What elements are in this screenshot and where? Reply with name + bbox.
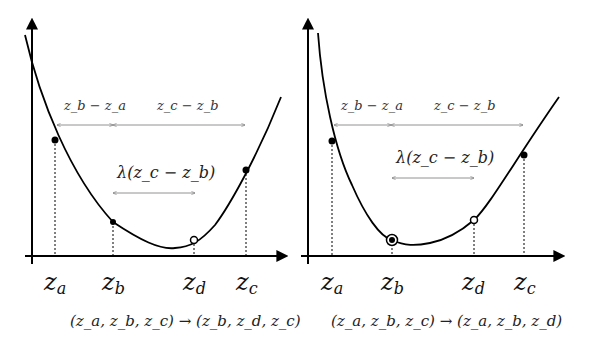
tick-label-zb: zb (380, 268, 404, 298)
label-zc-minus-zb: z_c − z_b (433, 98, 495, 113)
objective-curve (25, 35, 281, 248)
tick-label-zc: zc (513, 268, 536, 298)
transition-formula-right: (z_a, z_b, z_c) → (z_a, z_b, z_d) (331, 312, 562, 330)
golden-section-diagram: z_b − z_a z_c − z_b λ(z_c − z_b) za zb z… (0, 0, 591, 353)
tick-label-zd: zd (461, 268, 485, 298)
label-lambda: λ(z_c − z_b) (395, 148, 494, 167)
left-panel: z_b − z_a z_c − z_b λ(z_c − z_b) za zb z… (25, 20, 301, 330)
point-zd-hollow (191, 237, 198, 244)
point-za (52, 137, 59, 144)
objective-curve (318, 33, 559, 245)
point-zb (110, 219, 116, 225)
point-zc (243, 167, 250, 174)
label-lambda: λ(z_c − z_b) (116, 163, 215, 182)
label-zb-minus-za: z_b − z_a (63, 98, 126, 113)
tick-label-za: za (43, 268, 66, 298)
point-zd-hollow (471, 217, 478, 224)
label-zb-minus-za: z_b − z_a (340, 98, 403, 113)
tick-label-zd: zd (182, 268, 206, 298)
tick-label-za: za (320, 268, 343, 298)
label-zc-minus-zb: z_c − z_b (156, 98, 218, 113)
right-panel: z_b − z_a z_c − z_b λ(z_c − z_b) za zb z… (301, 20, 563, 330)
point-zb (389, 237, 395, 243)
point-zc (521, 152, 528, 159)
transition-formula-left: (z_a, z_b, z_c) → (z_b, z_d, z_c) (70, 312, 301, 330)
tick-label-zc: zc (235, 268, 258, 298)
tick-label-zb: zb (101, 268, 125, 298)
point-za (329, 138, 336, 145)
